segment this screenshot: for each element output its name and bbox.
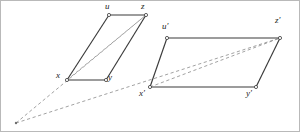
label-x-prime: x′ bbox=[139, 89, 145, 98]
label-y: y bbox=[108, 73, 112, 82]
vertex-y-prime bbox=[254, 85, 257, 88]
vertex-z bbox=[144, 13, 147, 16]
ray-apex-to-z-prime-icon bbox=[16, 38, 280, 123]
label-y-prime: y′ bbox=[246, 89, 252, 98]
label-z-prime: z′ bbox=[275, 16, 280, 25]
label-u-prime: u′ bbox=[162, 22, 168, 31]
projection-rays bbox=[16, 15, 280, 123]
vertex-x bbox=[65, 78, 68, 81]
edge-z-y bbox=[106, 15, 146, 80]
apex-point bbox=[15, 122, 17, 124]
diagonal-x-prime-z-prime bbox=[150, 38, 280, 87]
label-x: x bbox=[56, 71, 60, 80]
geometric-figure: u z x y u′ z′ x′ y′ bbox=[0, 0, 300, 132]
vertex-z-prime bbox=[278, 36, 281, 39]
label-u: u bbox=[105, 2, 110, 11]
vanishing-point bbox=[15, 122, 17, 124]
edge-x-prime-u-prime bbox=[150, 38, 167, 87]
vertex-x-prime bbox=[148, 85, 151, 88]
edge-x-u bbox=[67, 15, 109, 80]
figure-canvas bbox=[1, 1, 300, 132]
label-z: z bbox=[141, 2, 145, 11]
vertex-u bbox=[107, 13, 110, 16]
vertex-u-prime bbox=[165, 36, 168, 39]
